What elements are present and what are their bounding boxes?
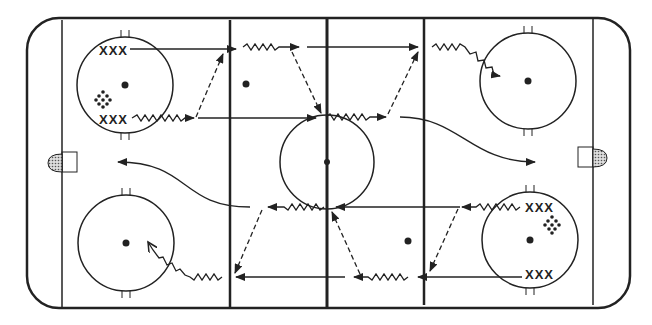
hockey-rink-diagram: XXX XXX XXX XXX xyxy=(0,0,652,325)
goal-net-right xyxy=(578,147,607,167)
puck-cluster-icon xyxy=(543,215,561,235)
bottom-drill-route xyxy=(118,162,522,280)
top-drill-route xyxy=(130,44,535,162)
faceoff-circle-top-right xyxy=(480,26,576,136)
puck-cluster-icon xyxy=(94,90,112,109)
player-group: XXX xyxy=(525,200,554,215)
neutral-dot-right xyxy=(405,238,412,245)
neutral-dot-left xyxy=(243,81,250,88)
goal-net-left xyxy=(48,152,77,172)
player-group: XXX xyxy=(525,267,554,282)
player-group: XXX xyxy=(99,43,128,58)
faceoff-circle-bottom-left xyxy=(78,188,174,298)
player-group: XXX xyxy=(99,112,128,127)
